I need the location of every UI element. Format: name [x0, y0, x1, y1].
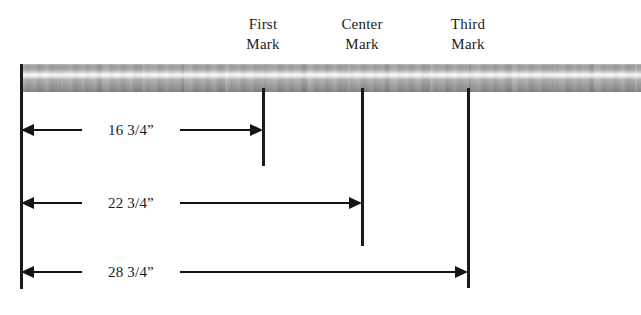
- dimension-value-third: 28 3/4”: [83, 265, 179, 280]
- extension-line-third-mark: [467, 88, 470, 288]
- dimension-line-segment-left: [32, 271, 82, 273]
- dimension-line-segment-right: [180, 129, 252, 131]
- arrow-right-icon: [349, 197, 362, 209]
- mark-label-first-line2: Mark: [208, 34, 318, 54]
- dimension-value-center: 22 3/4”: [83, 196, 179, 211]
- dimension-line-segment-left: [32, 202, 82, 204]
- mark-label-third-line1: Third: [413, 14, 523, 34]
- dimension-center-mark: 22 3/4”: [21, 196, 364, 210]
- mark-label-center-line1: Center: [307, 14, 417, 34]
- extension-line-center-mark: [361, 88, 364, 246]
- arrow-right-icon: [455, 266, 468, 278]
- metal-pipe: [20, 64, 641, 92]
- datum-line-pipe-end: [20, 64, 23, 289]
- mark-label-first-line1: First: [208, 14, 318, 34]
- mark-label-third: Third Mark: [413, 14, 523, 54]
- dimension-line-segment-left: [32, 129, 82, 131]
- dimension-line-segment-right: [180, 202, 351, 204]
- dimension-line-segment-right: [180, 271, 457, 273]
- mark-label-third-line2: Mark: [413, 34, 523, 54]
- dimension-first-mark: 16 3/4”: [21, 123, 265, 137]
- pipe-highlight: [20, 72, 641, 78]
- mark-label-center: Center Mark: [307, 14, 417, 54]
- dimension-third-mark: 28 3/4”: [21, 265, 470, 279]
- dimension-value-first: 16 3/4”: [83, 123, 179, 138]
- mark-label-center-line2: Mark: [307, 34, 417, 54]
- arrow-right-icon: [250, 124, 263, 136]
- pipe-measurement-diagram: First Mark Center Mark Third Mark 16 3/4…: [0, 0, 641, 315]
- mark-label-first: First Mark: [208, 14, 318, 54]
